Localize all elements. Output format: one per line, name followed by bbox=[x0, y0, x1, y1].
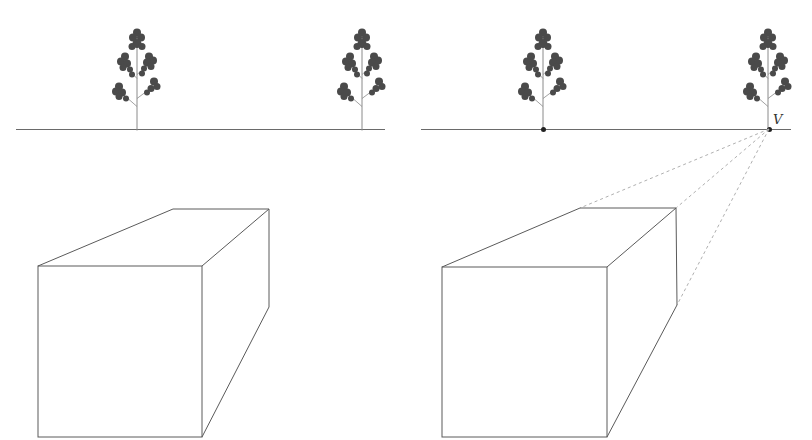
perspective-figure: V bbox=[0, 0, 812, 440]
right-box bbox=[442, 208, 677, 437]
box-drawings bbox=[0, 0, 812, 440]
left-box bbox=[38, 209, 269, 437]
construction-lines bbox=[580, 129, 769, 305]
